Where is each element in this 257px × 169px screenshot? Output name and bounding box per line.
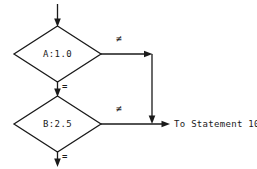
arrow-head-icon bbox=[54, 159, 61, 168]
decision-node-b[interactable]: B:2.5 bbox=[14, 96, 101, 152]
decision-node-a[interactable]: A:1.0 bbox=[14, 26, 101, 82]
edge-b-not-equal: ≠ bbox=[101, 103, 170, 128]
edge-label-b-not-equal: ≠ bbox=[116, 103, 122, 114]
decision-node-b-label: B:2.5 bbox=[43, 119, 72, 129]
edge-b-equal: = bbox=[54, 151, 68, 168]
arrow-head-icon bbox=[162, 121, 171, 128]
terminal-to-statement-10: To Statement 10 bbox=[174, 119, 257, 129]
arrow-head-icon bbox=[144, 51, 153, 58]
decision-node-a-label: A:1.0 bbox=[43, 49, 72, 59]
flowchart-diagram: A:1.0 ≠ = B:2.5 ≠ To bbox=[0, 0, 257, 169]
edge-a-not-equal: ≠ bbox=[101, 33, 155, 125]
edge-label-a-equal: = bbox=[62, 81, 68, 91]
edge-label-b-equal: = bbox=[62, 151, 68, 161]
flowchart-canvas: A:1.0 ≠ = B:2.5 ≠ To bbox=[0, 0, 257, 169]
entry-arrow bbox=[54, 4, 61, 27]
arrow-head-icon bbox=[149, 116, 156, 125]
edge-a-equal: = bbox=[54, 81, 68, 98]
edge-label-a-not-equal: ≠ bbox=[116, 33, 122, 44]
